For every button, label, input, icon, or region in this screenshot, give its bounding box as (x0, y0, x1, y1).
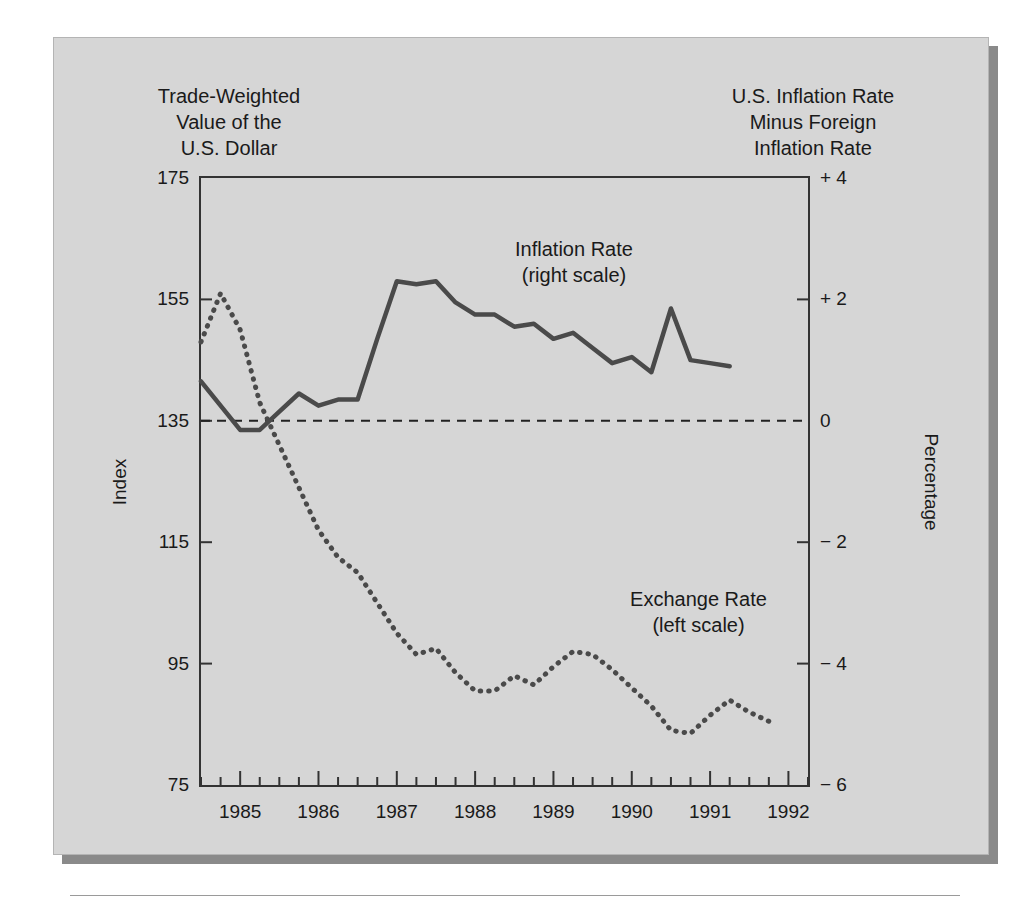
x-axis-tick-label: 1985 (219, 801, 261, 823)
right-axis-tick-label: + 2 (820, 288, 847, 310)
right-axis-caption: U.S. Inflation Rate Minus Foreign Inflat… (668, 83, 958, 161)
right-axis-tick-label: − 6 (820, 774, 847, 796)
right-axis-tick-label: − 2 (820, 531, 847, 553)
left-axis-title: Index (109, 458, 131, 504)
x-axis-tick-label: 1987 (376, 801, 418, 823)
chart-plot-area: Index Percentage Inflation Rate (right s… (199, 176, 810, 787)
left-axis-tick-label: 175 (157, 167, 189, 189)
right-axis-tick-label: + 4 (820, 167, 847, 189)
series-inflation-rate (201, 281, 730, 430)
series-exchange-rate (201, 293, 769, 733)
x-axis-tick-label: 1991 (689, 801, 731, 823)
left-axis-tick-label: 155 (157, 288, 189, 310)
right-axis-title: Percentage (920, 433, 942, 530)
x-axis-tick-marks (201, 771, 808, 785)
x-axis-tick-label: 1986 (297, 801, 339, 823)
right-axis-tick-label: 0 (820, 410, 831, 432)
right-axis-tick-label: − 4 (820, 653, 847, 675)
left-axis-tick-label: 75 (168, 774, 189, 796)
x-axis-tick-label: 1990 (611, 801, 653, 823)
footer-rule (70, 895, 960, 896)
x-axis-tick-label: 1988 (454, 801, 496, 823)
left-axis-tick-label: 135 (157, 410, 189, 432)
inflation-series-annotation: Inflation Rate (right scale) (469, 236, 679, 288)
left-axis-tick-marks (201, 299, 212, 663)
figure-panel: Trade-Weighted Value of the U.S. Dollar … (53, 37, 989, 855)
left-axis-tick-label: 115 (159, 531, 189, 553)
left-axis-tick-label: 95 (168, 653, 189, 675)
exchange-series-annotation: Exchange Rate (left scale) (591, 586, 806, 638)
x-axis-tick-label: 1992 (767, 801, 809, 823)
x-axis-tick-label: 1989 (532, 801, 574, 823)
left-axis-caption: Trade-Weighted Value of the U.S. Dollar (94, 83, 364, 161)
